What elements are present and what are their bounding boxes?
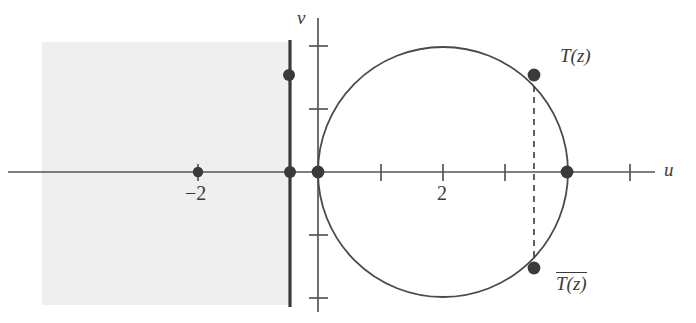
figure-canvas (0, 0, 696, 323)
half-plane-shading (42, 42, 290, 305)
point-boundary-origin (284, 166, 296, 178)
point-minus-2 (193, 167, 203, 177)
point-circle-right (561, 166, 574, 179)
point-label-Tz: T(z) (560, 46, 591, 65)
u-axis-label: u (664, 160, 674, 179)
u-tick-label-2: 2 (437, 183, 447, 203)
point-origin (312, 166, 325, 179)
v-axis-label: v (297, 8, 305, 27)
point-on-boundary-line (283, 69, 295, 81)
complex-plane-figure: v u 2 −2 T(z) T(z) (0, 0, 696, 323)
u-tick-label-minus-2: −2 (185, 183, 206, 203)
point-label-Tz-conjugate: T(z) (556, 272, 587, 293)
point-Tz (528, 69, 541, 82)
conjugate-overline-text: T(z) (556, 272, 587, 293)
point-Tz-conjugate (528, 262, 541, 275)
